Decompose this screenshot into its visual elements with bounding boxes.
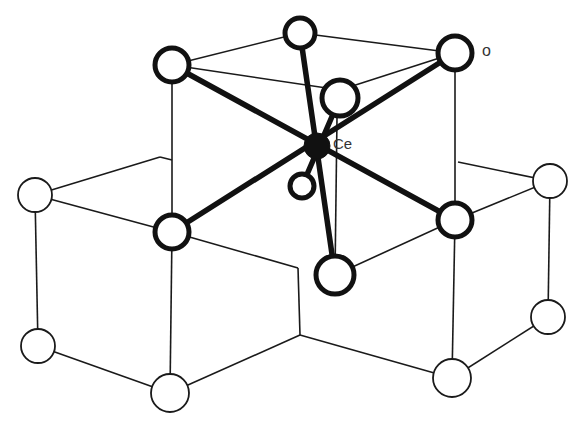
oxygen-atom	[533, 164, 567, 198]
oxygen-atom	[438, 203, 472, 237]
oxygen-atom	[290, 174, 314, 198]
oxygen-atom	[151, 374, 189, 412]
crystal-structure-diagram	[0, 0, 581, 422]
oxygen-label: o	[482, 42, 491, 60]
oxygen-atom	[21, 329, 55, 363]
oxygen-atom	[433, 359, 471, 397]
oxygen-atom	[285, 18, 315, 48]
oxygen-atom	[316, 256, 354, 294]
oxygen-atom	[438, 36, 472, 70]
oxygen-atoms-outer	[18, 164, 567, 412]
oxygen-atom	[155, 215, 189, 249]
oxygen-atom	[322, 80, 358, 116]
oxygen-atom	[531, 300, 565, 334]
oxygen-atom	[155, 48, 189, 82]
cerium-atom	[304, 133, 330, 159]
oxygen-atom	[18, 178, 52, 212]
ce-label: Ce	[333, 135, 352, 152]
